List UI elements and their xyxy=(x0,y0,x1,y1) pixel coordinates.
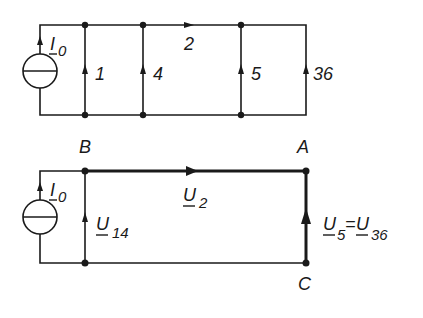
arrow-up-icon xyxy=(140,64,146,74)
voltage-u14-sub: 14 xyxy=(112,224,129,241)
voltage-u36-main: U xyxy=(356,214,370,234)
source-sub-bottom: 0 xyxy=(58,188,67,205)
source-arrow-icon xyxy=(37,182,43,191)
node-label-C: C xyxy=(298,274,312,294)
top-frame-wire xyxy=(40,25,306,115)
voltage-u2-sub: 2 xyxy=(198,194,208,211)
arrow-up-icon xyxy=(301,208,311,224)
branch-label-2: 2 xyxy=(183,34,194,54)
node-label-B: B xyxy=(79,137,91,157)
node-dot xyxy=(140,22,146,28)
branch-label-1: 1 xyxy=(95,64,105,84)
arrow-up-icon xyxy=(303,64,309,74)
branch-label-36: 36 xyxy=(313,64,334,84)
circuit-diagram: I 0 1 4 2 5 36 xyxy=(0,0,423,318)
bottom-circuit: I 0 B A C U 14 U 2 U 5 = U 36 xyxy=(23,137,388,294)
node-dot xyxy=(82,260,89,267)
node-dot xyxy=(238,22,244,28)
branch-label-4: 4 xyxy=(153,64,163,84)
source-arrow-icon xyxy=(37,36,43,45)
voltage-u36-sub: 36 xyxy=(371,226,388,243)
arrow-up-icon xyxy=(238,64,244,74)
node-dot xyxy=(82,22,88,28)
node-C xyxy=(303,260,310,267)
bottom-wire xyxy=(40,234,306,263)
arrow-right-icon xyxy=(186,166,198,176)
node-dot xyxy=(140,112,146,118)
node-B xyxy=(82,168,89,175)
arrow-right-icon xyxy=(184,22,194,28)
source-label-bottom: I xyxy=(50,180,55,200)
node-label-A: A xyxy=(296,137,309,157)
node-dot xyxy=(82,112,88,118)
source-label-top: I xyxy=(50,34,55,54)
arrow-up-icon xyxy=(82,64,88,74)
arrow-up-icon xyxy=(82,212,88,222)
branch-label-5: 5 xyxy=(251,64,262,84)
voltage-u5-main: U xyxy=(323,214,337,234)
top-circuit: I 0 1 4 2 5 36 xyxy=(23,22,334,118)
node-dot xyxy=(238,112,244,118)
voltage-u2-main: U xyxy=(183,185,197,205)
voltage-u14-main: U xyxy=(96,214,110,234)
source-sub-top: 0 xyxy=(58,42,67,59)
equals-sign: = xyxy=(345,214,356,234)
node-A xyxy=(303,168,310,175)
